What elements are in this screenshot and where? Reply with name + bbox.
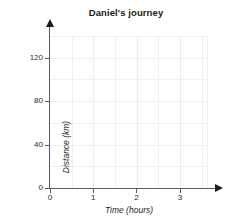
- gridline-v-right-edge: [207, 36, 208, 188]
- x-tick-label-2: 2: [127, 193, 147, 202]
- y-axis-arrow-icon: [46, 19, 54, 27]
- x-axis-line: [49, 188, 219, 189]
- gridline-h-40: [50, 145, 208, 146]
- y-tick-80: [45, 101, 50, 102]
- y-tick-40: [45, 145, 50, 146]
- gridline-v-2: [137, 36, 138, 188]
- x-tick-label-0: 0: [40, 193, 60, 202]
- gridline-v-3-5: [202, 36, 203, 188]
- x-tick-label-1: 1: [83, 193, 103, 202]
- gridline-h-80: [50, 101, 208, 102]
- gridline-v-0-5: [72, 36, 73, 188]
- gridline-h-60: [50, 123, 208, 124]
- gridline-v-1-5: [115, 36, 116, 188]
- chart-title: Daniel's journey: [0, 7, 234, 18]
- y-axis-title: Distance (km): [61, 87, 71, 207]
- gridline-h-20: [50, 166, 208, 167]
- gridline-v-2-5: [158, 36, 159, 188]
- plot-area: Distance (km) Time (hours): [50, 36, 208, 188]
- x-axis-title: Time (hours): [50, 205, 208, 215]
- x-tick-label-3: 3: [170, 193, 190, 202]
- y-tick-label-120: 120: [24, 53, 43, 62]
- gridline-h-120: [50, 58, 208, 59]
- y-tick-label-0: 0: [24, 183, 43, 192]
- y-tick-label-80: 80: [24, 96, 43, 105]
- y-tick-label-40: 40: [24, 140, 43, 149]
- y-axis-line: [49, 26, 50, 189]
- gridline-v-1: [93, 36, 94, 188]
- chart-container: Daniel's journey Distance (km) Time (hou…: [0, 0, 234, 224]
- gridline-h-140: [50, 36, 208, 37]
- y-tick-120: [45, 58, 50, 59]
- gridline-v-3: [180, 36, 181, 188]
- gridline-h-100: [50, 79, 208, 80]
- x-axis-arrow-icon: [215, 184, 223, 192]
